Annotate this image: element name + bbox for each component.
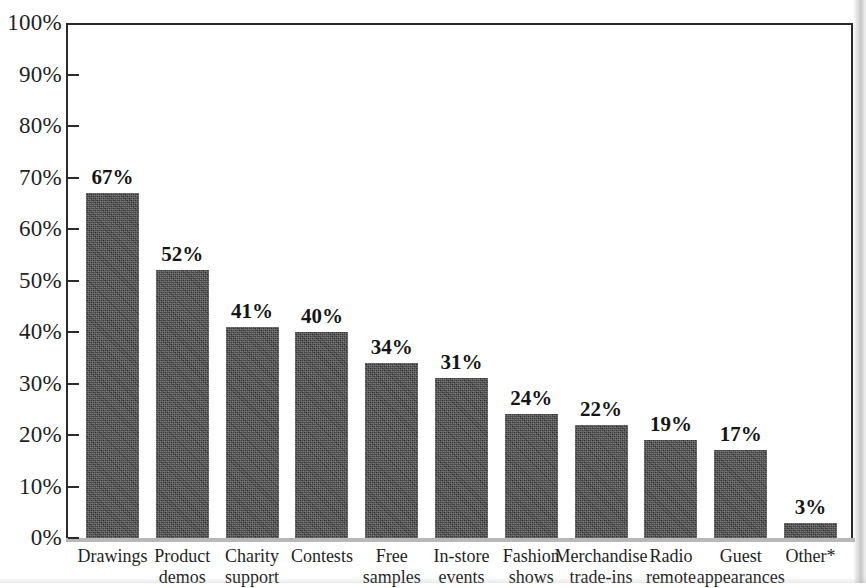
- bar-value-label: 52%: [142, 244, 223, 265]
- y-axis-tick-label: 90%: [19, 63, 62, 86]
- y-axis-tick: [68, 486, 79, 488]
- y-axis-tick-label: 60%: [19, 217, 62, 240]
- y-axis-tick-label: 10%: [19, 475, 62, 498]
- y-axis-tick-label: 70%: [19, 166, 62, 189]
- y-axis-tick: [68, 537, 79, 539]
- y-axis-tick: [68, 331, 79, 333]
- bar: [644, 440, 697, 538]
- x-axis-baseline: [66, 538, 855, 542]
- bar: [226, 327, 279, 538]
- category-label-line: Other*: [762, 546, 859, 567]
- bar: [505, 414, 558, 538]
- y-axis-tick: [68, 383, 79, 385]
- y-axis-tick-label: 50%: [19, 269, 62, 292]
- y-axis-tick: [68, 280, 79, 282]
- y-axis-tick-label: 80%: [19, 114, 62, 137]
- bar-value-label: 17%: [700, 424, 781, 445]
- bar-value-label: 67%: [72, 167, 153, 188]
- bar: [575, 425, 628, 538]
- y-axis-tick-label: 20%: [19, 423, 62, 446]
- y-axis-tick: [68, 125, 79, 127]
- scan-paper-edge: [853, 0, 866, 583]
- y-axis-tick-label: 40%: [19, 320, 62, 343]
- bar-value-label: 3%: [770, 497, 851, 518]
- bar: [156, 270, 209, 538]
- y-axis-tick-label: 30%: [19, 372, 62, 395]
- bar: [86, 193, 139, 538]
- y-axis-tick: [68, 434, 79, 436]
- y-axis-tick-label: 100%: [7, 11, 62, 34]
- y-axis-tick: [68, 74, 79, 76]
- bar: [784, 523, 837, 538]
- bar: [365, 363, 418, 538]
- bar: [714, 450, 767, 538]
- bar: [435, 378, 488, 538]
- bar: [295, 332, 348, 538]
- y-axis-tick: [68, 228, 79, 230]
- bar-value-label: 31%: [421, 352, 502, 373]
- scan-paper-edge-bottom: [0, 577, 866, 583]
- bar-value-label: 40%: [281, 306, 362, 327]
- y-axis-tick-label: 0%: [31, 526, 62, 549]
- x-axis-category-label: Other*: [762, 546, 859, 567]
